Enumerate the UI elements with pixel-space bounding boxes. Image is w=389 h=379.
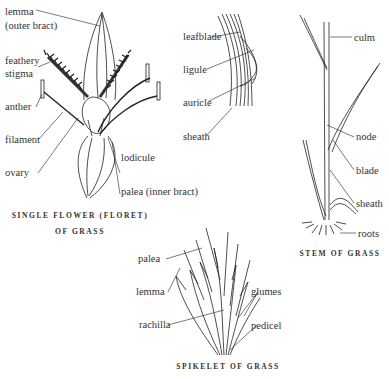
label-leafblade: leafblade [183, 31, 221, 42]
label-anther: anther [5, 101, 31, 112]
label-feathery: feathery [5, 55, 39, 66]
label-glumes: glumes [251, 286, 281, 297]
label-sheath-leaf: sheath [183, 131, 210, 142]
label-rachilla: rachilla [139, 319, 170, 330]
label-palea-inner-bract: palea (inner bract) [121, 186, 198, 197]
label-roots: roots [358, 228, 379, 239]
label-node: node [356, 131, 376, 142]
label-palea-spikelet: palea [138, 253, 160, 264]
label-filament: filament [5, 134, 40, 145]
label-ovary: ovary [5, 167, 29, 178]
label-ligule: ligule [183, 64, 207, 75]
spikelet-drawing [166, 228, 260, 355]
caption-spikelet-of-grass: Spikelet of grass [158, 362, 298, 371]
label-sheath-stem: sheath [356, 198, 383, 209]
label-blade: blade [356, 165, 379, 176]
label-culm: culm [354, 32, 375, 43]
label-stigma: stigma [5, 68, 33, 79]
label-lemma: lemma [5, 6, 34, 17]
caption-of-grass: of grass [10, 227, 150, 236]
caption-stem-of-grass: Stem of grass [290, 249, 389, 258]
floret-drawing [36, 10, 160, 198]
label-lodicule: lodicule [121, 152, 155, 163]
label-lemma-outer-bract: (outer bract) [5, 20, 57, 31]
label-auricle: auricle [183, 97, 212, 108]
label-pedicel: pedicel [251, 320, 281, 331]
label-lemma-spikelet: lemma [136, 286, 165, 297]
caption-single-flower: Single flower (floret) [10, 211, 150, 220]
